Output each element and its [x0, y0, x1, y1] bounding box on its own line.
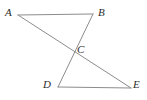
segment-de [58, 87, 131, 88]
vertex-label-d: D [43, 79, 51, 90]
vertex-label-e: E [133, 79, 140, 90]
vertex-label-c: C [77, 44, 84, 55]
vertex-label-a: A [5, 7, 12, 18]
geometry-canvas [0, 0, 147, 100]
geometry-figure: A B C D E [0, 0, 147, 100]
segment-bd [58, 14, 93, 87]
vertex-label-b: B [98, 7, 105, 18]
segment-ab [18, 14, 93, 15]
